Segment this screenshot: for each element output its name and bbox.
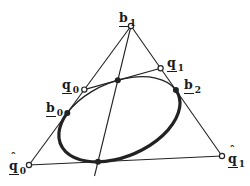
point-q0-open-marker — [82, 87, 87, 92]
conic-diagram: b1q0q1b0b2ˆq0ˆq1 — [0, 0, 250, 186]
line-left-side — [29, 26, 131, 165]
point-shoulder-point-filled-marker — [115, 77, 121, 83]
point-q1-open-marker — [158, 66, 163, 71]
diagram-svg — [0, 0, 250, 186]
point-b0-filled-marker — [64, 110, 70, 116]
point-b1-open-marker — [128, 23, 133, 28]
point-qhat0-open-marker — [26, 162, 31, 167]
point-b2-filled-marker — [173, 87, 179, 93]
line-median-line — [95, 26, 132, 176]
ellipse-thick-arc — [59, 90, 180, 162]
ellipse-thin-arc — [67, 77, 176, 113]
point-qhat1-open-marker — [219, 153, 224, 158]
point-base-tangent-point-filled-marker — [95, 159, 101, 165]
